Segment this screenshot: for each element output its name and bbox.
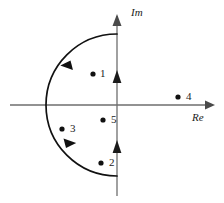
real-axis-arrowhead (205, 101, 215, 110)
point-marker-4 (175, 94, 180, 99)
point-marker-2 (98, 160, 103, 165)
point-label-2: 2 (109, 156, 115, 168)
point-label-5: 5 (111, 113, 117, 125)
point-label-3: 3 (70, 122, 76, 134)
axis-direction-arrow-upper (113, 70, 122, 83)
real-axis (10, 101, 215, 110)
axis-direction-arrow-lower (113, 140, 122, 153)
real-axis-label: Re (192, 111, 204, 123)
point-label-4: 4 (186, 90, 192, 102)
imaginary-axis-label: Im (131, 6, 143, 18)
point-marker-3 (59, 126, 64, 131)
imaginary-axis-arrowhead (113, 14, 122, 26)
point-marker-1 (90, 71, 95, 76)
point-marker-5 (100, 117, 105, 122)
point-label-1: 1 (100, 67, 106, 79)
contour-arrow-lower (60, 135, 76, 151)
